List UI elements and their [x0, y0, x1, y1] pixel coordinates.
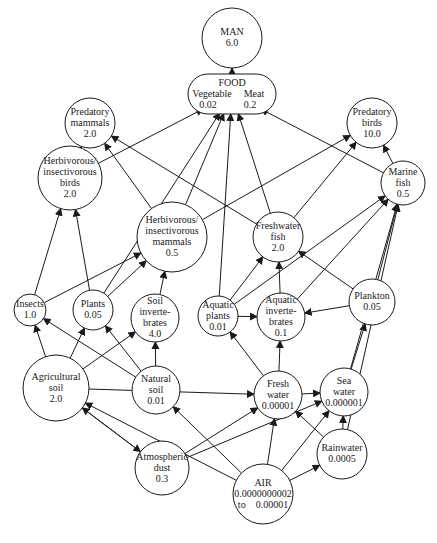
- node-label: brates: [143, 317, 167, 328]
- node-label: Sea: [337, 375, 352, 386]
- edge-soil-inv-to-herb-mammals: [160, 271, 165, 294]
- node-herb-mammals: Herbivorous/insectivorousmammals0.5: [137, 202, 207, 272]
- node-label: dust: [154, 462, 171, 473]
- node-value: 0.01: [147, 395, 165, 406]
- node-value: 6.0: [226, 37, 239, 48]
- node-value: 0.1: [275, 327, 288, 338]
- edge-aquatic-plants-to-freshwater-fish: [230, 257, 263, 300]
- node-agri-soil: Agriculturalsoil2.0: [23, 355, 89, 421]
- node-label: MAN: [220, 26, 243, 37]
- edge-agri-soil-to-insects: [35, 325, 46, 357]
- food-sub-label: Vegetable: [192, 88, 232, 99]
- node-label: Marine: [389, 166, 418, 177]
- nodes-layer: MAN6.0FOODVegetable0.02Meat0.2Predatorym…: [14, 8, 425, 524]
- node-title: FOOD: [218, 77, 245, 88]
- edge-plankton-to-aquatic-inv: [305, 306, 350, 313]
- node-value: 2.0: [272, 242, 285, 253]
- edge-aquatic-inv-to-freshwater-fish: [279, 262, 280, 293]
- edge-atm-dust-to-agri-soil: [82, 408, 140, 452]
- edge-herb-mammals-to-food: [186, 114, 224, 205]
- node-label: Herbivorous/: [146, 214, 199, 225]
- node-label: insectivorous: [43, 166, 96, 177]
- node-soil-inv: Soilinverte-brates4.0: [131, 294, 179, 342]
- node-value: 0.3: [156, 473, 169, 484]
- node-label: Atmospheric: [136, 451, 188, 462]
- node-freshwater-fish: Freshwaterfish2.0: [253, 212, 303, 262]
- edge-herb-mammals-to-predatory-birds: [202, 135, 350, 219]
- node-value: 0.5: [397, 188, 410, 199]
- node-label: 0.0000000002: [234, 488, 292, 499]
- edge-plants-to-herb-birds: [75, 210, 89, 291]
- node-aquatic-inv: Aquaticinverte-brates0.1: [257, 293, 305, 341]
- node-label: Freshwater: [256, 220, 301, 231]
- edge-fresh-water-to-aquatic-plants: [230, 332, 263, 376]
- edge-plankton-to-freshwater-fish: [299, 251, 354, 289]
- node-marine-fish: Marinefish0.5: [381, 161, 425, 205]
- node-label: soil: [149, 384, 164, 395]
- node-label: Predatory: [71, 106, 110, 117]
- edge-air-to-rainwater: [290, 465, 320, 480]
- node-value: 0.05: [84, 309, 102, 320]
- node-label: insectivorous: [145, 225, 198, 236]
- edge-freshwater-fish-to-predatory-birds: [294, 142, 356, 217]
- node-value: 2.0: [64, 188, 77, 199]
- node-label: birds: [60, 177, 80, 188]
- edge-freshwater-fish-to-food: [238, 114, 270, 213]
- node-plants: Plants0.05: [73, 290, 113, 330]
- node-label: Aquatic: [202, 299, 234, 310]
- node-sea-water: Seawater0.000001: [320, 368, 368, 416]
- edge-atm-dust-to-fresh-water: [185, 408, 258, 454]
- node-value: to 0.00001: [238, 499, 288, 510]
- node-predatory-birds: Predatorybirds10.0: [347, 98, 397, 148]
- node-label: Aquatic: [265, 294, 297, 305]
- node-rainwater: Rainwater0.0005: [317, 429, 367, 479]
- edge-marine-fish-to-predatory-birds: [383, 145, 392, 163]
- node-label: Predatory: [353, 106, 392, 117]
- node-predatory-mammals: Predatorymammals2.0: [65, 98, 115, 148]
- node-label: Insects: [16, 298, 44, 309]
- node-value: 0.00001: [262, 400, 295, 411]
- node-label: birds: [362, 117, 382, 128]
- edge-herb-mammals-to-predatory-mammals: [105, 143, 152, 208]
- node-food: FOODVegetable0.02Meat0.2: [188, 74, 276, 114]
- node-value: 0.000001: [325, 397, 363, 408]
- node-value: 0.0005: [328, 453, 356, 464]
- node-man: MAN6.0: [202, 8, 262, 68]
- node-value: 0.5: [166, 247, 179, 258]
- node-label: mammals: [71, 117, 110, 128]
- edge-insects-to-herb-birds: [35, 209, 61, 295]
- node-fresh-water: Freshwater0.00001: [254, 371, 302, 419]
- node-aquatic-plants: Aquaticplants0.01: [198, 296, 238, 336]
- food-sub-value: 0.02: [199, 99, 217, 110]
- edge-rainwater-to-fresh-water: [296, 411, 324, 437]
- edge-fresh-water-to-aquatic-inv: [279, 341, 280, 371]
- node-label: Agricultural: [32, 371, 81, 382]
- node-label: Soil: [147, 295, 163, 306]
- node-label: water: [333, 386, 356, 397]
- node-label: mammals: [153, 236, 192, 247]
- node-label: plants: [206, 310, 230, 321]
- node-label: Plants: [81, 298, 106, 309]
- cadmium-pathway-diagram: MAN6.0FOODVegetable0.02Meat0.2Predatorym…: [0, 0, 437, 543]
- node-label: fish: [271, 231, 286, 242]
- node-label: AIR: [254, 477, 272, 488]
- node-air: AIR0.0000000002to 0.00001: [233, 464, 293, 524]
- node-value: 2.0: [84, 128, 97, 139]
- node-plankton: Plankton0.05: [349, 279, 395, 325]
- node-label: brates: [269, 316, 293, 327]
- node-insects: Insects1.0: [14, 294, 46, 326]
- node-label: inverte-: [139, 306, 170, 317]
- node-label: Rainwater: [321, 442, 363, 453]
- food-sub-label: Meat: [244, 88, 265, 99]
- node-label: Fresh: [267, 378, 289, 389]
- node-value: 0.05: [363, 301, 381, 312]
- edge-agri-soil-to-soil-inv: [83, 332, 135, 369]
- edge-plankton-to-marine-fish: [378, 204, 398, 279]
- node-natural-soil: Naturalsoil0.01: [132, 366, 180, 414]
- food-sub-value: 0.2: [244, 99, 257, 110]
- node-label: Natural: [141, 373, 171, 384]
- edge-fresh-water-to-sea-water: [302, 393, 320, 394]
- node-label: soil: [49, 382, 64, 393]
- node-label: fish: [396, 177, 411, 188]
- node-label: Herbivorous/: [44, 155, 97, 166]
